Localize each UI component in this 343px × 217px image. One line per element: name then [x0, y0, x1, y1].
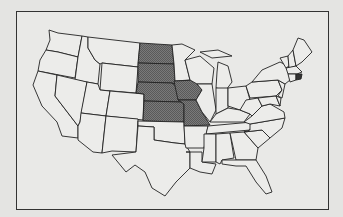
- state-south-dakota: [138, 63, 175, 84]
- state-wyoming: [100, 63, 138, 93]
- state-kansas: [143, 101, 184, 122]
- state-pennsylvania: [246, 80, 282, 98]
- state-rhode-island: [296, 74, 302, 80]
- states-layer: [33, 30, 312, 196]
- state-colorado: [106, 91, 144, 120]
- state-maine: [293, 38, 312, 66]
- state-arizona: [78, 113, 106, 153]
- us-map: [0, 0, 343, 217]
- state-massachusetts: [286, 66, 302, 74]
- state-north-dakota: [138, 43, 174, 64]
- state-florida: [222, 160, 272, 194]
- state-mississippi: [202, 134, 216, 162]
- state-new-mexico: [102, 116, 138, 153]
